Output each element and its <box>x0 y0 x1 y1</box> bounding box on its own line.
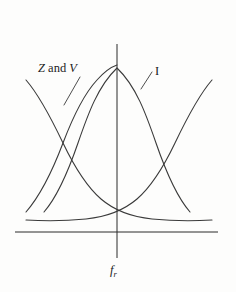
label-resonant-frequency: fr <box>110 263 117 279</box>
resonance-curve-figure: Z and V I fr <box>0 0 236 292</box>
leader-line-current <box>141 72 152 89</box>
label-current: I <box>155 64 159 78</box>
curve-z-and-v-left <box>26 65 117 212</box>
curve-z-and-v-right <box>26 80 212 221</box>
label-z-and-v: Z and V <box>38 61 78 75</box>
figure-canvas: Z and V I fr <box>0 0 236 292</box>
label-r-subscript: r <box>113 269 117 279</box>
label-and-text: and <box>45 61 69 75</box>
curve-z-and-v-descending <box>26 80 212 221</box>
axes-group <box>15 44 218 258</box>
leader-line-z-and-v <box>64 77 80 105</box>
label-v-symbol: V <box>69 61 78 75</box>
